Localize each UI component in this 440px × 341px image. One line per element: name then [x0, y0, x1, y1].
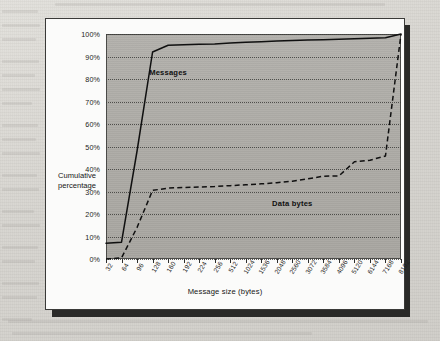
- y-axis-tick-label: 100%: [81, 30, 100, 39]
- y-axis-tick-label: 90%: [85, 52, 100, 61]
- series-annotation-label: Messages: [149, 68, 187, 77]
- x-axis-tick-label: 2048: [273, 259, 287, 275]
- x-axis-tick-label: 5120: [350, 259, 364, 275]
- x-axis-tick-label: 6144: [366, 259, 380, 275]
- x-axis-tick-label: 3072: [304, 259, 318, 275]
- y-axis-tick-label: 0%: [89, 255, 100, 264]
- series-line-messages: [106, 34, 401, 243]
- x-axis-tick-label: 2560: [288, 259, 302, 275]
- x-axis-tick-label: 4096: [335, 259, 349, 275]
- x-axis-tick-label: 32: [104, 262, 114, 272]
- x-axis-tick-label: 96: [135, 262, 145, 272]
- y-axis-tick-label: 70%: [85, 97, 100, 106]
- y-axis-tick-label: 80%: [85, 75, 100, 84]
- x-axis-tick-label: 3584: [319, 259, 333, 275]
- x-axis-tick-label: 256: [212, 260, 224, 273]
- y-axis-tick-label: 10%: [85, 232, 100, 241]
- y-axis-tick-label: 50%: [85, 142, 100, 151]
- x-axis-title: Message size (bytes): [46, 287, 404, 296]
- figure-chart-container: Cumulative percentage 100%90%80%70%60%50…: [45, 18, 405, 310]
- ghost-text-top-band: [45, 0, 436, 18]
- y-axis-tick-label: 20%: [85, 210, 100, 219]
- x-axis-tick-label: 192: [181, 260, 193, 273]
- x-axis-tick-label: 1024: [242, 259, 256, 275]
- x-axis-tick-label: 1536: [257, 259, 271, 275]
- y-axis-tick-label: 40%: [85, 165, 100, 174]
- ghost-text-left-column: [2, 0, 42, 341]
- x-axis-tick-label: 128: [150, 260, 162, 273]
- plot-wrapper: 100%90%80%70%60%50%40%30%20%10%0% 326496…: [106, 34, 401, 259]
- y-axis-tick-label: 30%: [85, 187, 100, 196]
- y-axis-tick-label: 60%: [85, 120, 100, 129]
- x-axis-tick-label: 160: [165, 260, 177, 273]
- x-axis-tick-label: 64: [120, 262, 130, 272]
- x-axis-tick-label: 512: [227, 260, 239, 273]
- ghost-text-bottom-band: [8, 318, 436, 341]
- x-axis-tick-label: 7168: [381, 259, 395, 275]
- series-annotation-label: Data bytes: [272, 198, 312, 207]
- x-axis-tick-label: 224: [196, 260, 208, 273]
